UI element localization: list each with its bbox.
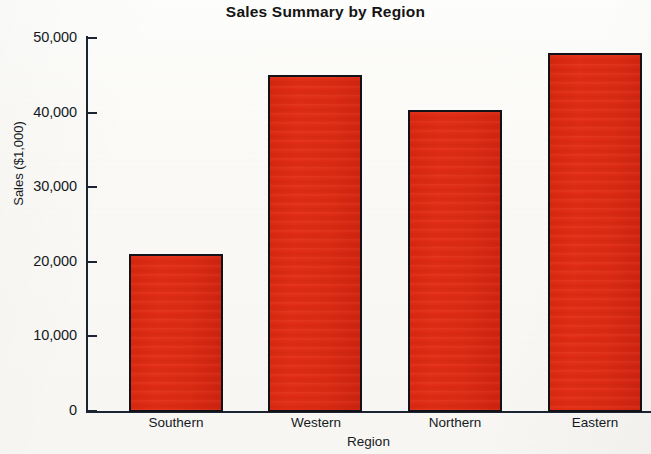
y-axis-tick-mark [88,186,97,188]
y-axis-tick-label: 50,000 [0,29,77,45]
y-axis-tick-mark [88,112,97,114]
y-axis-tick-mark [88,410,97,412]
y-axis-tick-mark [88,37,97,39]
category-label-eastern: Eastern [525,415,651,430]
chart-title: Sales Summary by Region [0,3,651,21]
y-axis-tick-label: 40,000 [0,104,77,120]
category-label-western: Western [246,415,386,430]
y-axis-tick-label: 0 [0,402,77,418]
y-axis-tick-mark [88,335,97,337]
y-axis-tick-label: 20,000 [0,253,77,269]
y-axis-line [86,36,88,413]
bar-northern [408,110,502,412]
bar-western [268,75,362,412]
category-label-northern: Northern [385,415,525,430]
y-axis-tick-label: 30,000 [0,178,77,194]
y-axis-tick-mark [88,261,97,263]
x-axis-title: Region [86,434,651,449]
bar-southern [129,254,223,412]
bar-eastern [548,53,642,412]
category-label-southern: Southern [106,415,246,430]
y-axis-tick-label: 10,000 [0,327,77,343]
bar-chart-figure: Sales Summary by Region Sales ($1,000) R… [0,0,651,454]
